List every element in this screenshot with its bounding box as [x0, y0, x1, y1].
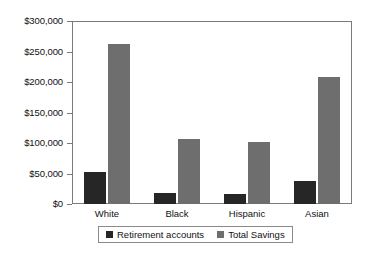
x-axis-label-black: Black [142, 207, 212, 220]
bar-chart: $0$50,000$100,000$150,000$200,000$250,00… [0, 0, 370, 256]
y-axis-tick-label: $300,000 [24, 14, 63, 27]
bar-group [212, 21, 282, 204]
y-axis-tick-label: $150,000 [24, 106, 63, 119]
y-axis-tick-label: $50,000 [29, 167, 63, 180]
bar-white-retirement [84, 172, 106, 204]
legend-item-retirement: Retirement accounts [106, 228, 204, 241]
bar-hispanic-retirement [224, 194, 246, 204]
bar-black-savings [178, 139, 200, 204]
bar-hispanic-savings [248, 142, 270, 204]
legend-item-savings: Total Savings [217, 228, 285, 241]
bars-layer [72, 21, 352, 204]
bar-asian-retirement [294, 181, 316, 204]
x-axis-label-asian: Asian [282, 207, 352, 220]
y-axis-tick-label: $0 [53, 197, 63, 210]
y-axis-tick-label: $100,000 [24, 136, 63, 149]
legend-label: Retirement accounts [117, 228, 204, 241]
y-axis: $0$50,000$100,000$150,000$200,000$250,00… [0, 0, 72, 256]
bar-black-retirement [154, 193, 176, 204]
x-axis: WhiteBlackHispanicAsian [72, 205, 352, 223]
y-axis-tick-label: $200,000 [24, 75, 63, 88]
legend-swatch-retirement [106, 231, 113, 238]
x-axis-label-white: White [72, 207, 142, 220]
legend-swatch-savings [217, 231, 224, 238]
bar-white-savings [108, 44, 130, 204]
y-axis-tick-label: $250,000 [24, 45, 63, 58]
bar-asian-savings [318, 77, 340, 204]
bar-group [142, 21, 212, 204]
bar-group [282, 21, 352, 204]
bar-group [72, 21, 142, 204]
legend-label: Total Savings [228, 228, 285, 241]
chart-legend: Retirement accountsTotal Savings [98, 226, 293, 243]
x-axis-label-hispanic: Hispanic [212, 207, 282, 220]
